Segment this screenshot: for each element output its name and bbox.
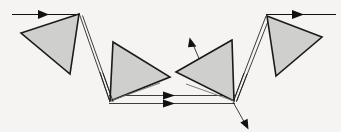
figure-container: [0, 0, 341, 132]
figure-background: [0, 0, 341, 132]
ray-diagram-svg: [0, 0, 341, 132]
